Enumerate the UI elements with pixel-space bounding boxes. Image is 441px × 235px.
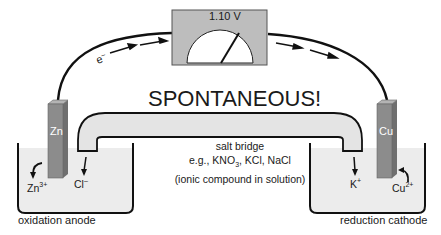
zn-electrode-label: Zn — [50, 125, 63, 137]
diagram-title: SPONTANEOUS! — [148, 86, 318, 112]
voltmeter-reading: 1.10 V — [209, 10, 241, 22]
zn-electrode — [48, 104, 63, 178]
cu-electrode — [377, 104, 392, 178]
galvanic-cell-diagram — [0, 0, 441, 235]
k-ion-arrow — [354, 157, 355, 171]
salt-bridge-title: salt bridge — [170, 139, 310, 153]
salt-bridge-examples: e.g., KNO3, KCl, NaCl — [170, 153, 310, 172]
salt-bridge-note: (ionic compound in solution) — [170, 172, 310, 186]
cathode-caption: reduction cathode — [340, 214, 427, 226]
cl-ion-label: Cl– — [74, 177, 88, 190]
anode-caption: oxidation anode — [18, 214, 96, 226]
salt-bridge-description: salt bridge e.g., KNO3, KCl, NaCl (ionic… — [170, 139, 310, 186]
cu-electrode-label: Cu — [379, 125, 393, 137]
cu-ion-label: Cu2+ — [392, 181, 413, 194]
zn-ion-label: Zn3+ — [27, 181, 47, 194]
k-ion-label: K+ — [350, 177, 361, 190]
